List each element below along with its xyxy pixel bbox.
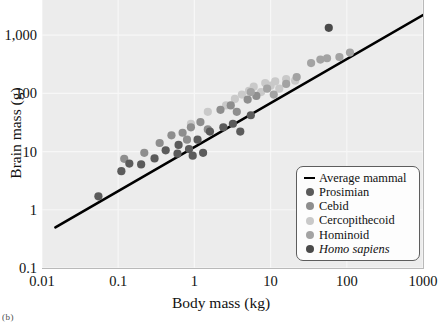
legend-dot-marker-icon xyxy=(306,245,314,253)
legend-item-label: Hominoid xyxy=(319,229,369,241)
y-axis-title: Brain mass (g) xyxy=(7,73,25,193)
x-axis-tick-label: 1 xyxy=(154,274,234,289)
legend-dot-marker-icon xyxy=(306,217,314,225)
x-axis-tick-label: 0.1 xyxy=(78,274,158,289)
x-axis-title: Body mass (kg) xyxy=(0,294,442,312)
legend-item[interactable]: Cebid xyxy=(303,199,414,213)
brain-body-mass-scatter-chart: 0.11101001,000 0.010.11101001000 Body ma… xyxy=(0,0,442,325)
legend-item[interactable]: Hominoid xyxy=(303,228,414,242)
legend-item[interactable]: Cercopithecoid xyxy=(303,214,414,228)
x-axis-tick-label: 10 xyxy=(231,274,311,289)
x-axis-tick-label: 100 xyxy=(307,274,387,289)
legend-item-label: Cebid xyxy=(319,200,349,212)
legend-item-label: Prosimian xyxy=(319,186,369,198)
figure-caption-fragment: (b) xyxy=(2,312,14,322)
legend-dot-marker-icon xyxy=(306,231,314,239)
legend-item[interactable]: Average mammal xyxy=(303,171,414,185)
legend-dot-marker-icon xyxy=(306,188,314,196)
legend-line-marker-icon xyxy=(304,177,315,180)
x-axis-tick-labels: 0.010.11101001000 xyxy=(0,0,442,325)
legend-item[interactable]: Prosimian xyxy=(303,185,414,199)
x-axis-tick-label: 0.01 xyxy=(2,274,82,289)
legend-item-label: Cercopithecoid xyxy=(319,214,395,226)
legend-item-label: Homo sapiens xyxy=(319,243,390,255)
legend-item-label: Average mammal xyxy=(319,172,407,184)
x-axis-tick-label: 1000 xyxy=(383,274,442,289)
legend-item[interactable]: Homo sapiens xyxy=(303,242,414,256)
legend-dot-marker-icon xyxy=(306,202,314,210)
chart-legend: Average mammalProsimianCebidCercopitheco… xyxy=(296,166,420,261)
